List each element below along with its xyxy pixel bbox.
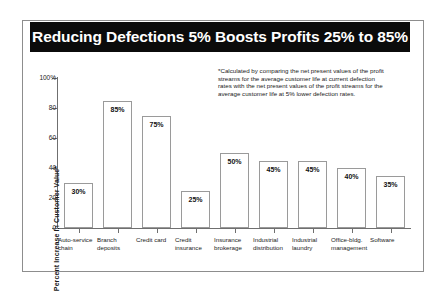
y-tick-label: 0 — [52, 224, 56, 231]
chart-title: Reducing Defections 5% Boosts Profits 25… — [32, 28, 408, 46]
x-tick-mark — [391, 228, 392, 233]
bar-value-label: 25% — [182, 196, 209, 203]
bar-value-label: 75% — [143, 121, 170, 128]
bar-value-label: 30% — [65, 188, 92, 195]
x-tick-mark — [274, 228, 275, 233]
bar-value-label: 50% — [221, 158, 248, 165]
bar: 85% — [103, 101, 132, 229]
bar-value-label: 35% — [377, 181, 404, 188]
bar: 35% — [376, 176, 405, 229]
x-axis-label: Credit insurance — [175, 236, 219, 252]
x-axis-label: Industrial distribution — [253, 236, 297, 252]
bar-value-label: 85% — [104, 106, 131, 113]
x-tick-mark — [235, 228, 236, 233]
bar: 40% — [337, 168, 366, 228]
y-tick-label: 20 — [49, 194, 56, 201]
bar-value-label: 45% — [260, 166, 287, 173]
x-axis-label: Office-bldg. management — [331, 236, 375, 252]
x-tick-mark — [118, 228, 119, 233]
chart-title-banner: Reducing Defections 5% Boosts Profits 25… — [30, 22, 410, 52]
bar-value-label: 40% — [338, 173, 365, 180]
bar: 75% — [142, 116, 171, 229]
y-tick-label: 100% — [39, 74, 56, 81]
bar: 25% — [181, 191, 210, 229]
y-axis-title: Percent Increase In Customer Value* — [53, 119, 60, 295]
x-axis-label: Auto-service chain — [58, 236, 102, 252]
plot-area: Percent Increase In Customer Value* 0204… — [58, 78, 410, 228]
x-tick-mark — [157, 228, 158, 233]
bar: 50% — [220, 153, 249, 228]
x-axis-label: Credit card — [136, 236, 180, 244]
bar: 45% — [298, 161, 327, 229]
x-tick-mark — [352, 228, 353, 233]
x-axis-label: Insurance brokerage — [214, 236, 258, 252]
x-tick-mark — [196, 228, 197, 233]
bar: 45% — [259, 161, 288, 229]
bar: 30% — [64, 183, 93, 228]
x-axis-label: Branch deposits — [97, 236, 141, 252]
x-axis-label: Industrial laundry — [292, 236, 336, 252]
x-axis-label: Software — [370, 236, 414, 244]
chart-annotation: *Calculated by comparing the net present… — [218, 67, 390, 97]
y-tick-label: 60 — [49, 134, 56, 141]
x-tick-mark — [79, 228, 80, 233]
bar-value-label: 45% — [299, 166, 326, 173]
x-tick-mark — [313, 228, 314, 233]
y-tick-label: 80 — [49, 104, 56, 111]
y-tick-label: 40 — [49, 164, 56, 171]
